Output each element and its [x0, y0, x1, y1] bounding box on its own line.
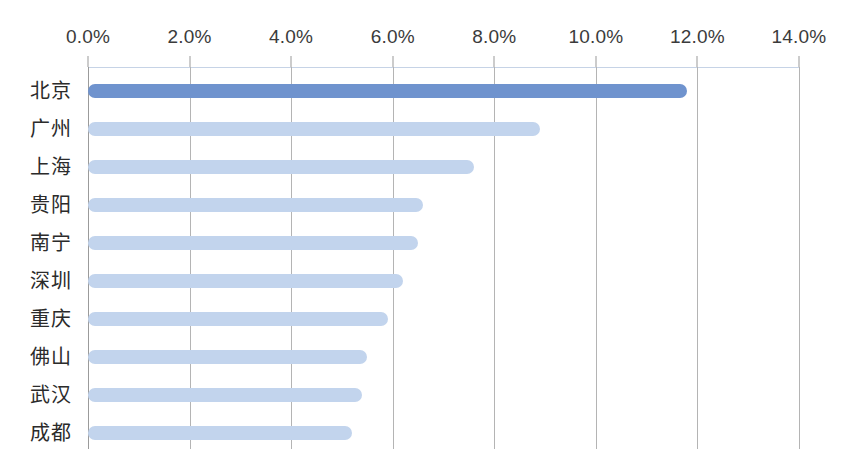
- x-axis-tick-label: 4.0%: [269, 27, 313, 46]
- bar[interactable]: [88, 236, 418, 250]
- category-label: 上海: [30, 157, 72, 177]
- bar[interactable]: [88, 350, 367, 364]
- x-axis-tick-label: 10.0%: [568, 27, 623, 46]
- x-axis-tick-label: 14.0%: [772, 27, 827, 46]
- bar[interactable]: [88, 160, 474, 174]
- category-label: 贵阳: [30, 195, 72, 215]
- gridline: [799, 67, 800, 449]
- category-label: 重庆: [30, 309, 72, 329]
- plot-area: 北京广州上海贵阳南宁深圳重庆佛山武汉成都: [0, 67, 855, 449]
- category-label: 北京: [30, 81, 72, 101]
- x-axis-tick-mark: [697, 56, 698, 67]
- x-axis-tick-mark: [189, 56, 190, 67]
- category-label: 深圳: [30, 271, 72, 291]
- x-axis-tick-mark: [88, 56, 89, 67]
- bar[interactable]: [88, 426, 352, 440]
- x-axis-tick-mark: [595, 56, 596, 67]
- category-label: 成都: [30, 423, 72, 443]
- x-axis-tick-label: 12.0%: [670, 27, 725, 46]
- x-axis-tick-label: 0.0%: [66, 27, 110, 46]
- x-axis-tick-mark: [494, 56, 495, 67]
- bar-chart: 0.0%2.0%4.0%6.0%8.0%10.0%12.0%14.0% 北京广州…: [0, 0, 855, 476]
- category-label: 佛山: [30, 347, 72, 367]
- category-label: 武汉: [30, 385, 72, 405]
- bar[interactable]: [88, 122, 540, 136]
- category-label: 广州: [30, 119, 72, 139]
- x-axis-tick-mark: [291, 56, 292, 67]
- gridline: [596, 67, 597, 449]
- x-axis-tick-label: 2.0%: [168, 27, 212, 46]
- bar[interactable]: [88, 312, 388, 326]
- category-label: 南宁: [30, 233, 72, 253]
- x-axis-tick-labels: 0.0%2.0%4.0%6.0%8.0%10.0%12.0%14.0%: [0, 0, 855, 60]
- plot-top-rule: [88, 67, 800, 68]
- x-axis-tick-label: 8.0%: [472, 27, 516, 46]
- bar[interactable]: [88, 84, 687, 98]
- bar[interactable]: [88, 274, 403, 288]
- bar[interactable]: [88, 198, 423, 212]
- x-axis-tick-mark: [799, 56, 800, 67]
- bar[interactable]: [88, 388, 362, 402]
- x-axis-tick-label: 6.0%: [371, 27, 415, 46]
- x-axis-tick-mark: [392, 56, 393, 67]
- gridline: [697, 67, 698, 449]
- plot-bottom-padding: [0, 449, 855, 476]
